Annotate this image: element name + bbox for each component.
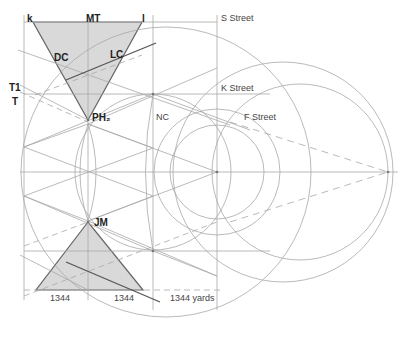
- dimension-middle: 1344: [114, 294, 134, 303]
- label-ph2: PH₂: [92, 113, 110, 123]
- label-f-street: F Street: [244, 113, 276, 122]
- geometry-drawing: [0, 0, 413, 340]
- label-t: T: [12, 97, 18, 107]
- dimension-right: 1344 yards: [170, 294, 215, 303]
- label-jm: JM: [94, 218, 108, 228]
- label-s-street: S Street: [221, 14, 254, 23]
- label-k-street: K Street: [221, 84, 254, 93]
- label-dc: DC: [54, 53, 68, 63]
- label-mt: MT: [86, 14, 100, 24]
- lower-triangle: [36, 222, 143, 290]
- label-t1: T1: [9, 83, 21, 93]
- dimension-left: 1344: [50, 294, 70, 303]
- diagram-canvas: k MT l DC LC T1 T PH₂ NC JM S Street K S…: [0, 0, 413, 340]
- label-lc: LC: [110, 50, 123, 60]
- label-l: l: [142, 14, 145, 24]
- label-nc: NC: [156, 113, 169, 122]
- label-k: k: [27, 14, 33, 24]
